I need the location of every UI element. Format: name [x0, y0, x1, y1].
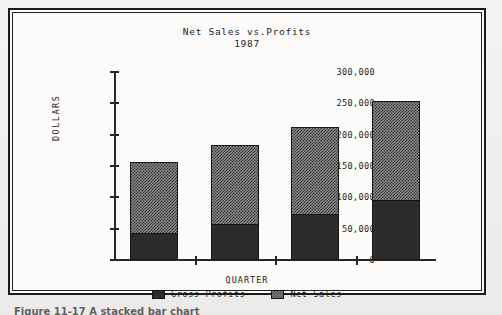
bar-segment-net-sales	[211, 145, 259, 226]
bar-segment-net-sales	[291, 127, 339, 214]
figure-caption: Figure 11-17 A stacked bar chart	[14, 306, 244, 315]
x-axis-tick	[356, 256, 358, 265]
y-axis-tick-label: 50,000	[342, 224, 375, 234]
y-axis-tick	[110, 71, 119, 73]
bar-segment-gross-profits	[291, 214, 339, 260]
y-axis-tick	[110, 102, 119, 104]
legend-item-net-sales: Net Sales	[271, 289, 341, 299]
y-axis-tick	[110, 259, 119, 261]
chart-subtitle: 1987	[13, 38, 481, 50]
figure-frame: Net Sales vs.Profits 1987 DOLLARS 300,00…	[8, 8, 486, 295]
legend-swatch-gross-profits-icon	[152, 290, 165, 299]
bar-segment-net-sales	[372, 101, 420, 202]
y-axis-tick-label: 100,000	[336, 192, 375, 202]
bar-segment-net-sales	[130, 162, 178, 234]
bar-segment-gross-profits	[211, 224, 259, 260]
y-axis-tick	[110, 228, 119, 230]
bar-segment-gross-profits	[372, 200, 420, 260]
y-axis-tick-label: 250,000	[336, 98, 375, 108]
legend-item-gross-profits: Gross Profits	[152, 289, 245, 299]
x-axis-tick	[275, 256, 277, 265]
y-axis-tick	[110, 165, 119, 167]
y-axis-tick-label: 300,000	[336, 67, 375, 77]
y-axis-tick-label: 200,000	[336, 130, 375, 140]
y-axis-label: DOLLARS	[51, 95, 61, 141]
chart-title: Net Sales vs.Profits	[13, 26, 481, 38]
y-axis-tick-label: 150,000	[336, 161, 375, 171]
x-axis-tick	[195, 256, 197, 265]
figure-frame-inner: Net Sales vs.Profits 1987 DOLLARS 300,00…	[12, 12, 482, 291]
chart-plot-area: Net Sales vs.Profits 1987 DOLLARS 300,00…	[13, 13, 481, 290]
legend-label-gross-profits: Gross Profits	[171, 289, 245, 299]
chart-title-block: Net Sales vs.Profits 1987	[13, 26, 481, 50]
x-axis-label: QUARTER	[13, 275, 481, 285]
y-axis-tick	[110, 196, 119, 198]
legend-swatch-net-sales-icon	[271, 290, 284, 299]
legend-label-net-sales: Net Sales	[290, 289, 341, 299]
chart-legend: Gross Profits Net Sales	[13, 289, 481, 299]
bar-segment-gross-profits	[130, 233, 178, 260]
y-axis-tick	[110, 134, 119, 136]
